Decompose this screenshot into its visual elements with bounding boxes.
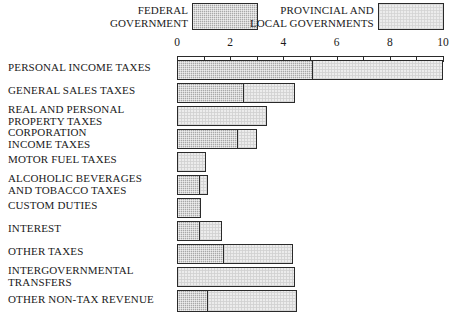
bar-segment-provincial [177,267,295,287]
category-label: CUSTOM DUTIES [8,200,97,212]
bar-segment-provincial [223,244,293,264]
chart-root: FEDERAL GOVERNMENT PROVINCIAL AND LOCAL … [0,0,449,331]
legend-label-federal: FEDERAL GOVERNMENT [110,4,192,29]
category-label: GENERAL SALES TAXES [8,85,135,97]
category-label: INTERGOVERNMENTAL TRANSFERS [8,265,134,288]
stacked-bar [177,175,208,195]
bar-segment-federal [177,129,238,149]
category-label: OTHER NON-TAX REVENUE [8,294,154,306]
x-axis: 0246810 [0,36,449,58]
stacked-bar [177,244,293,264]
x-axis-tick-label: 6 [334,36,340,48]
provincial-light-swatch [378,3,444,30]
stacked-bar [177,198,201,218]
x-axis-tick-label: 4 [281,36,287,48]
stacked-bar [177,83,295,103]
category-label: MOTOR FUEL TAXES [8,154,117,166]
category-label: PERSONAL INCOME TAXES [8,62,151,74]
legend-item-provincial: PROVINCIAL AND LOCAL GOVERNMENTS [250,3,444,30]
chart-legend: FEDERAL GOVERNMENT PROVINCIAL AND LOCAL … [0,0,449,34]
category-label: ALCOHOLIC BEVERAGES AND TOBACCO TAXES [8,173,142,196]
bar-segment-provincial [312,60,443,80]
category-label: REAL AND PERSONAL PROPERTY TAXES [8,104,124,127]
bar-segment-federal [177,83,244,103]
x-axis-tick-label: 8 [387,36,393,48]
x-axis-tick-label: 2 [227,36,233,48]
legend-item-federal: FEDERAL GOVERNMENT [110,3,258,30]
plot-area: PERSONAL INCOME TAXESGENERAL SALES TAXES… [0,58,449,331]
x-axis-tick-label: 0 [174,36,180,48]
legend-label-provincial: PROVINCIAL AND LOCAL GOVERNMENTS [250,4,378,29]
stacked-bar [177,152,206,172]
stacked-bar [177,129,257,149]
bar-segment-provincial [177,152,206,172]
stacked-bar [177,106,267,126]
category-label: OTHER TAXES [8,246,83,258]
federal-hatched-swatch [192,3,258,30]
bar-segment-federal [177,290,208,312]
category-label: CORPORATION INCOME TAXES [8,127,90,150]
bar-segment-federal [177,60,313,80]
bar-segment-provincial [207,290,297,312]
bar-segment-provincial [237,129,257,149]
stacked-bar [177,60,443,80]
bar-segment-provincial [199,175,208,195]
bar-segment-federal [177,244,224,264]
bar-segment-provincial [177,106,267,126]
stacked-bar [177,290,297,312]
bar-segment-federal [177,175,200,195]
bar-segment-provincial [243,83,296,103]
bar-segment-federal [177,221,200,241]
bar-segment-federal [177,198,201,218]
bar-segment-provincial [199,221,223,241]
x-axis-tick-label: 10 [437,36,449,48]
category-label: INTEREST [8,223,61,235]
stacked-bar [177,221,222,241]
stacked-bar [177,267,295,287]
